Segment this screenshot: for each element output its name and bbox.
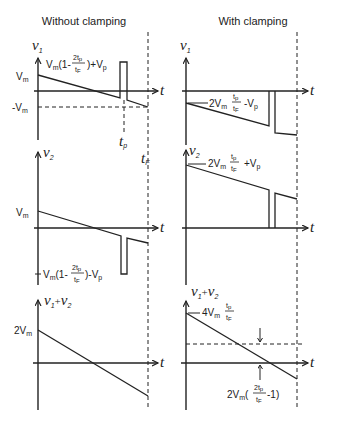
left-v2-vm-label: Vm (16, 207, 29, 219)
svg-text:tp: tp (233, 93, 239, 101)
left-v2-waveform (38, 211, 148, 274)
left-sum-plot: v1+v2 t 2Vm (14, 292, 165, 410)
clamping-waveform-diagram: Without clamping With clamping v1 t Vm -… (0, 0, 338, 439)
svg-text:tF: tF (233, 105, 239, 113)
svg-text:tF: tF (226, 314, 232, 322)
left-v2-axis-label: v2 (43, 144, 54, 161)
left-v1-axis-label: v1 (32, 37, 43, 54)
right-sum-waveform (186, 313, 297, 379)
right-sum-offset-label: 2Vm( 2tp tF -1) (227, 384, 279, 404)
left-sum-start-label: 2Vm (14, 325, 32, 337)
left-v1-plot: v1 t Vm -Vm Vm(1- 2tp tF )+Vp tp tF (12, 37, 165, 166)
right-v1-label: 2Vm tp tF -Vp (188, 93, 258, 113)
svg-text:2Vm(: 2Vm( (227, 389, 249, 401)
svg-text:2tp: 2tp (72, 264, 82, 272)
svg-text:tF: tF (231, 165, 237, 173)
svg-text:tF: tF (75, 66, 81, 74)
svg-text:Vm(1-: Vm(1- (46, 59, 71, 71)
left-v1-peak-label: Vm(1- 2tp tF )+Vp (46, 54, 107, 74)
svg-text:2tp: 2tp (73, 54, 83, 62)
svg-text:tF: tF (256, 396, 262, 404)
left-tp-label: tp (119, 133, 127, 150)
svg-text:tp: tp (226, 302, 232, 310)
svg-text:tp: tp (231, 153, 237, 161)
svg-text:2Vm: 2Vm (209, 98, 227, 110)
right-v1-t-label: t (310, 82, 315, 98)
right-v1-plot: v1 t 2Vm tp tF -Vp (180, 37, 315, 145)
right-v2-waveform-b (275, 193, 297, 228)
right-v2-t-label: t (310, 219, 315, 235)
title-with-clamping: With clamping (218, 15, 287, 27)
right-sum-axis-label: v1+v2 (191, 283, 218, 300)
right-v1-axis-label: v1 (180, 37, 191, 54)
svg-text:Vm(1-: Vm(1- (43, 269, 68, 281)
right-v1-waveform-b (275, 91, 297, 135)
svg-text:tF: tF (74, 276, 80, 284)
left-v1-t-label: t (160, 82, 165, 98)
svg-text:2tp: 2tp (254, 384, 264, 392)
svg-text:)+Vp: )+Vp (87, 59, 107, 72)
left-v2-t-label: t (160, 219, 165, 235)
left-sum-axis-label: v1+v2 (44, 292, 71, 309)
svg-text:4Vm: 4Vm (202, 307, 220, 319)
title-without-clamping: Without clamping (42, 15, 126, 27)
left-v2-low-label: Vm(1- 2tp tF )-Vp (43, 264, 102, 284)
svg-text:)-Vp: )-Vp (85, 269, 102, 282)
left-v1-neg-vm-label: -Vm (12, 102, 28, 114)
left-sum-t-label: t (160, 354, 165, 370)
left-v1-vm-label: Vm (16, 71, 29, 83)
left-tf-label: tF (141, 150, 150, 166)
svg-text:2Vm: 2Vm (208, 158, 226, 170)
right-sum-plot: v1+v2 t 4Vm tp tF 2Vm( 2tp tF -1) (181, 283, 315, 410)
right-v2-axis-label: v2 (189, 142, 200, 159)
right-v2-waveform-a (186, 165, 269, 228)
right-sum-t-label: t (310, 354, 315, 370)
right-v2-plot: v2 t 2Vm tp tF +Vp (182, 142, 315, 285)
svg-text:-Vp: -Vp (244, 98, 258, 111)
svg-text:-1): -1) (267, 389, 279, 400)
svg-text:+Vp: +Vp (244, 158, 261, 171)
